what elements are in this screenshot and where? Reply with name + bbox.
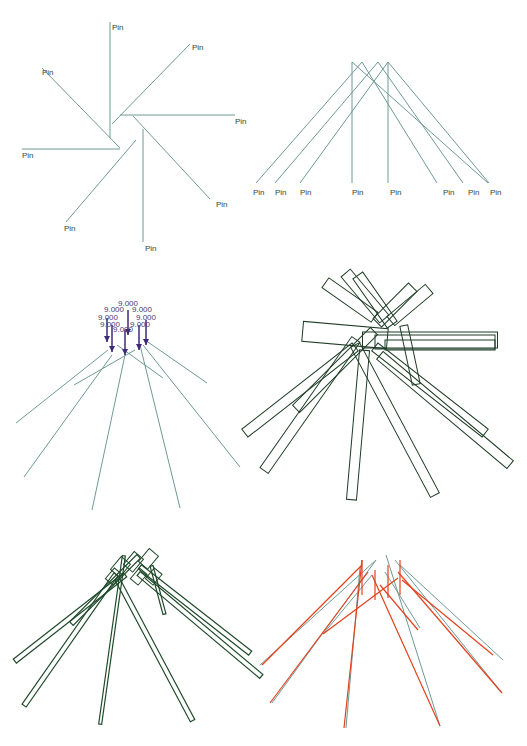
pin-label: Pin [300, 188, 312, 197]
wire [16, 350, 108, 423]
pin-label: Pin [64, 224, 76, 233]
deformed-wire [372, 575, 440, 726]
deformed-beam [138, 565, 251, 655]
deformed-wire [402, 580, 493, 655]
wire [140, 345, 180, 508]
pin-label: Pin [145, 244, 157, 253]
wire [143, 345, 240, 467]
original-wire [395, 560, 502, 693]
deformed-joint [138, 549, 158, 570]
beam-section [293, 328, 378, 413]
forces-panel: 9.0009.0009.0009.0009.0009.0009.0009.000 [16, 299, 240, 510]
pin-label: Pin [390, 188, 402, 197]
deformed-wire [344, 560, 362, 728]
pin-wire [362, 62, 437, 183]
pin-wire [256, 62, 362, 183]
deformed-wire [380, 585, 418, 630]
wire [74, 350, 135, 385]
pin-wire [275, 62, 378, 183]
deformed-overlay-panel [260, 555, 503, 728]
pin-label: Pin [192, 43, 204, 52]
pinwheel-panel: PinPinPinPinPinPinPinPin [22, 22, 247, 253]
pin-wire [42, 68, 120, 148]
deformed-beam [150, 565, 166, 614]
pin-label: Pin [468, 188, 480, 197]
beam-section [387, 284, 433, 325]
pin-wire [300, 62, 388, 183]
pin-label: Pin [490, 188, 502, 197]
pin-label: Pin [275, 188, 287, 197]
pin-wire [112, 44, 190, 124]
deformed-beams-panel [13, 549, 263, 725]
beam-section [351, 343, 440, 498]
beam-section [377, 352, 514, 469]
pin-wire [352, 62, 488, 183]
pin-wire [133, 116, 210, 199]
beam-section [375, 335, 495, 349]
deformed-wire [262, 565, 362, 665]
wire [92, 355, 125, 510]
bars-panel [242, 269, 514, 500]
beam-section [373, 283, 417, 327]
force-arrow-icon [104, 336, 110, 342]
beam-section [322, 278, 378, 322]
pin-label: Pin [42, 68, 54, 77]
pin-label: Pin [443, 188, 455, 197]
deformed-beam [115, 578, 195, 722]
pin-label: Pin [352, 188, 364, 197]
original-wire [324, 575, 372, 633]
pin-label: Pin [235, 117, 247, 126]
force-value-label: 9.000 [130, 320, 151, 329]
deformed-wire [323, 578, 398, 634]
wire [145, 340, 207, 383]
beam-section [400, 325, 420, 385]
pin-label: Pin [216, 200, 228, 209]
beam-section [260, 337, 360, 474]
pin-wire [388, 62, 489, 183]
force-arrow-icon [109, 346, 115, 352]
pin-label: Pin [112, 23, 124, 32]
diagram-canvas: PinPinPinPinPinPinPinPin PinPinPinPinPin… [0, 0, 527, 746]
pin-label: Pin [22, 151, 34, 160]
original-wire [400, 565, 503, 660]
wire [24, 355, 112, 477]
beam-section [346, 350, 369, 500]
fan-panel: PinPinPinPinPinPinPinPin [253, 62, 502, 197]
pin-wire [66, 140, 136, 222]
pin-label: Pin [253, 188, 265, 197]
